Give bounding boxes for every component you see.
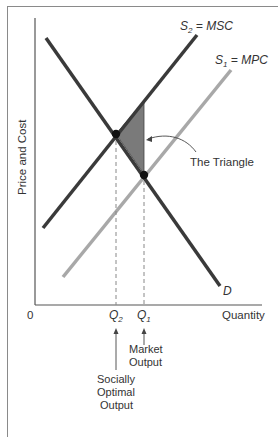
social-equilibrium-point: [112, 130, 120, 138]
market-output-line-2: Output: [129, 356, 162, 368]
socially-optimal-line-2: Optimal: [97, 386, 135, 398]
market-equilibrium-point: [140, 171, 148, 179]
arrow-up-icon: [114, 328, 119, 334]
origin-label: 0: [27, 309, 33, 321]
arrow-head-icon: [146, 136, 152, 142]
mpc-label: S1 = MPC: [215, 53, 268, 69]
y-axis-label: Price and Cost: [16, 119, 28, 195]
triangle-label: The Triangle: [190, 156, 254, 168]
q2-label: Q2: [109, 308, 123, 324]
arrow-up-icon: [142, 328, 147, 334]
socially-optimal-line-3: Output: [100, 399, 133, 411]
x-axis-label: Quantity: [222, 309, 265, 321]
demand-label: D: [223, 284, 232, 298]
q1-label: Q1: [137, 308, 151, 324]
welfare-loss-triangle: [116, 101, 144, 174]
socially-optimal-line-1: Socially: [97, 373, 135, 385]
msc-label: S2 = MSC: [180, 19, 233, 35]
market-output-line-1: Market: [129, 343, 163, 355]
